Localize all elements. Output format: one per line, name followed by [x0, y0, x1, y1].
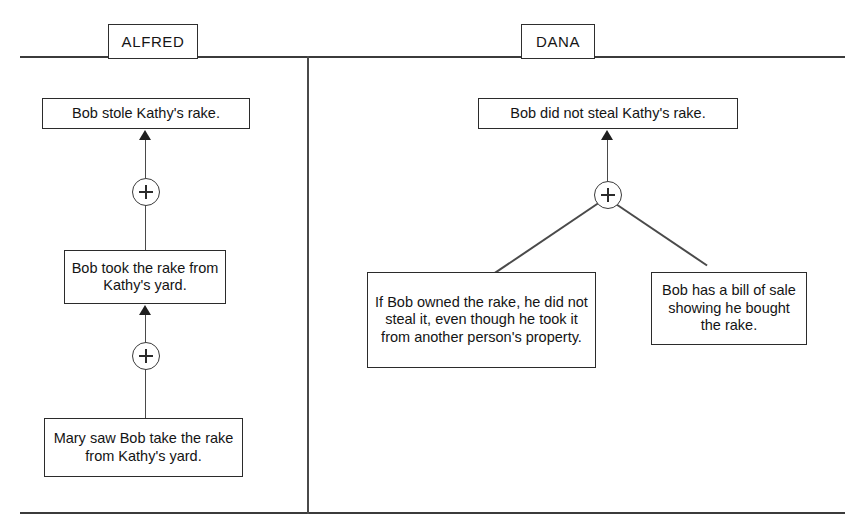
dana-connector-diagonal-left [494, 203, 598, 274]
dana-conclusion-text: Bob did not steal Kathy's rake. [510, 105, 705, 123]
column-header-alfred: ALFRED [108, 24, 198, 59]
alfred-connector-lower [145, 315, 147, 343]
alfred-middle-text: Bob took the rake from Kathy's yard. [71, 260, 219, 295]
alfred-conclusion-box: Bob stole Kathy's rake. [42, 98, 250, 129]
dana-connector-vertical [607, 140, 609, 181]
alfred-premise-box: Mary saw Bob take the rake from Kathy's … [44, 418, 243, 477]
argument-diagram-canvas: ALFRED DANA Bob stole Kathy's rake. Bob … [0, 0, 861, 525]
dana-premise-left-text: If Bob owned the rake, he did not steal … [374, 294, 589, 347]
column-divider [307, 56, 309, 514]
alfred-arrowhead-lower [139, 305, 151, 315]
alfred-connector-node-to-middle [145, 203, 147, 251]
dana-premise-right-text: Bob has a bill of sale showing he bought… [658, 282, 800, 335]
bottom-divider-rule [20, 512, 845, 514]
alfred-middle-box: Bob took the rake from Kathy's yard. [64, 250, 226, 304]
column-header-dana: DANA [521, 24, 595, 59]
column-header-dana-label: DANA [536, 33, 580, 50]
alfred-arrowhead-upper [139, 130, 151, 140]
alfred-premise-text: Mary saw Bob take the rake from Kathy's … [51, 430, 236, 465]
column-header-alfred-label: ALFRED [122, 33, 185, 50]
alfred-connector-node-to-premise [145, 367, 147, 419]
dana-linked-node [594, 181, 622, 209]
alfred-conclusion-text: Bob stole Kathy's rake. [72, 105, 220, 123]
alfred-connector-upper [145, 140, 147, 178]
alfred-linked-node-lower [132, 342, 160, 370]
dana-premise-right-box: Bob has a bill of sale showing he bought… [651, 272, 807, 345]
dana-premise-left-box: If Bob owned the rake, he did not steal … [367, 272, 596, 368]
alfred-linked-node-upper [132, 178, 160, 206]
dana-arrowhead [601, 130, 613, 140]
dana-conclusion-box: Bob did not steal Kathy's rake. [478, 98, 738, 129]
dana-connector-diagonal-right [616, 203, 708, 266]
